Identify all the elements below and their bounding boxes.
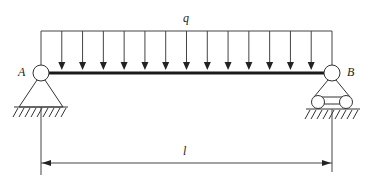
load-arrowhead-icon [121,62,128,70]
beam-diagram: q A B l [0,0,372,189]
load-arrowhead-icon [266,62,273,70]
load-arrowhead-icon [79,62,86,70]
span-dimension [41,107,332,175]
load-arrowhead-icon [58,62,65,70]
dimension-arrow-left-icon [42,160,51,166]
load-arrows [58,31,314,70]
load-arrowhead-icon [204,62,211,70]
ground-hatch-a [13,108,66,117]
support-a-label: A [18,66,25,78]
load-label: q [183,12,189,24]
span-label: l [183,145,186,157]
load-arrowhead-icon [225,62,232,70]
load-arrowhead-icon [287,62,294,70]
dimension-arrow-right-icon [322,160,331,166]
load-arrowhead-icon [141,62,148,70]
support-b-label: B [347,66,354,78]
load-arrowhead-icon [162,62,169,70]
beam-diagram-graphic [0,0,372,189]
load-arrowhead-icon [245,62,252,70]
load-arrowhead-icon [100,62,107,70]
load-arrowhead-icon [183,62,190,70]
load-arrowhead-icon [308,62,315,70]
